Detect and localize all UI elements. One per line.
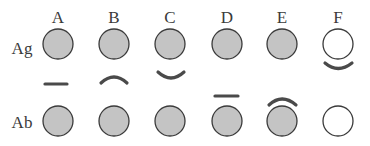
ag-circle-e <box>267 29 297 59</box>
ab-circle-b <box>99 106 129 136</box>
ab-circle-e <box>267 106 297 136</box>
column-label-f: F <box>333 8 342 27</box>
ab-circle-f <box>323 106 353 136</box>
ag-row <box>43 29 353 59</box>
column-label-a: A <box>52 8 65 27</box>
ab-row <box>43 106 353 136</box>
ab-circle-d <box>212 106 242 136</box>
row-label-ag: Ag <box>12 39 33 58</box>
column-label-c: C <box>164 8 175 27</box>
connector-c-arch-down <box>158 72 184 78</box>
ag-circle-c <box>155 29 185 59</box>
ag-circle-b <box>99 29 129 59</box>
ab-circle-c <box>155 106 185 136</box>
ag-circle-d <box>212 29 242 59</box>
ab-circle-a <box>43 106 73 136</box>
connector-f-arch-down <box>325 63 352 69</box>
ag-circle-f <box>323 29 353 59</box>
column-label-e: E <box>277 8 287 27</box>
row-label-ab: Ab <box>12 113 33 132</box>
connectors <box>45 63 352 105</box>
column-label-b: B <box>108 8 119 27</box>
ag-circle-a <box>43 29 73 59</box>
connector-b-arch-up <box>101 77 127 83</box>
connector-e-arch-up <box>269 99 296 105</box>
column-label-d: D <box>221 8 233 27</box>
ag-ab-diagram: A B C D E F Ag Ab <box>0 0 370 146</box>
